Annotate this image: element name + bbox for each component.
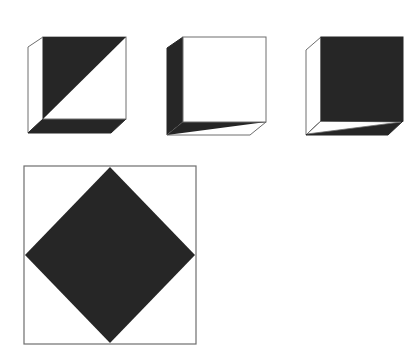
cube-2-front-face	[183, 37, 266, 122]
cube-2-left-face	[167, 37, 183, 135]
cube-1-left-face	[28, 37, 43, 133]
figure-canvas	[0, 0, 415, 363]
large-square-pattern	[24, 166, 196, 344]
cube-3-left-face	[306, 37, 321, 135]
cube-3	[306, 37, 403, 135]
cube-2	[167, 37, 266, 135]
cube-1-bottom-face	[28, 119, 126, 133]
cube-3-front-face	[321, 37, 403, 121]
cube-1	[28, 37, 126, 133]
